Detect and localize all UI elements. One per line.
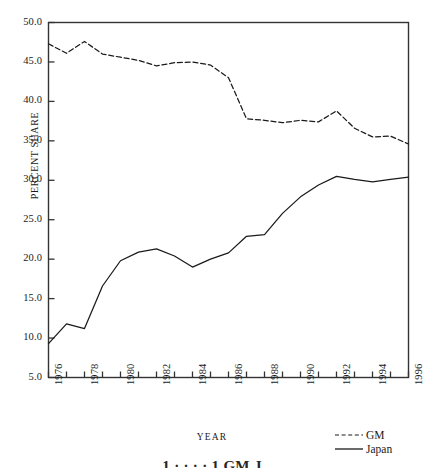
- y-axis-tick-label: 10.0: [8, 331, 42, 342]
- legend-label-gm: GM: [366, 428, 385, 442]
- x-axis-tick-label: 1982: [161, 363, 172, 384]
- chart-container: 50.045.040.035.030.025.020.015.010.05.0 …: [0, 0, 424, 468]
- y-axis-tick-label: 15.0: [8, 292, 42, 303]
- x-axis-tick-label: 1988: [269, 363, 280, 384]
- y-axis-tick-label: 5.0: [8, 371, 42, 382]
- legend-swatch-dashed-icon: [334, 430, 364, 440]
- y-axis-title: PERCENT SHARE: [29, 96, 40, 216]
- x-axis-tick-label: 1978: [89, 363, 100, 384]
- legend-item-japan: Japan: [334, 442, 392, 456]
- x-axis-tick-label: 1990: [305, 363, 316, 384]
- x-axis-tick-label: 1996: [413, 363, 424, 384]
- x-axis-tick-label: 1994: [377, 363, 388, 384]
- chart-plot-area: [0, 0, 424, 468]
- y-axis-tick-label: 45.0: [8, 55, 42, 66]
- x-axis-tick-label: 1980: [125, 363, 136, 384]
- legend-swatch-solid-icon: [334, 444, 364, 454]
- x-axis-tick-label: 1992: [341, 363, 352, 384]
- series-line-gm: [49, 41, 409, 144]
- legend-label-japan: Japan: [366, 442, 392, 456]
- x-axis-tick-label: 1984: [197, 363, 208, 384]
- legend-item-gm: GM: [334, 428, 392, 442]
- chart-legend: GM Japan: [334, 428, 392, 456]
- page-caption: 1 · · · · 1 GM J: [0, 458, 424, 468]
- y-axis-tick-label: 20.0: [8, 252, 42, 263]
- y-axis-tick-label: 50.0: [8, 16, 42, 27]
- x-axis-tick-label: 1986: [233, 363, 244, 384]
- series-line-japan: [49, 176, 409, 343]
- x-axis-tick-label: 1976: [53, 363, 64, 384]
